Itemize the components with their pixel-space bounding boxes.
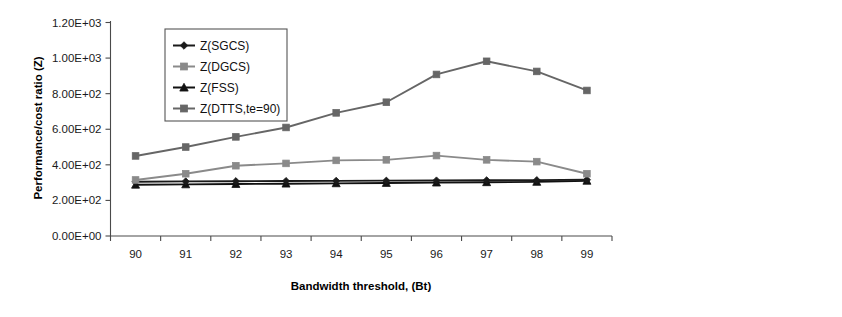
data-point-marker bbox=[533, 68, 540, 75]
data-point-marker bbox=[483, 157, 490, 164]
data-point-marker bbox=[132, 177, 139, 184]
data-point-marker bbox=[383, 157, 390, 164]
series-line bbox=[136, 156, 587, 180]
data-point-marker bbox=[283, 160, 290, 167]
legend-label: Z(SGCS) bbox=[200, 39, 249, 53]
series-z-fss bbox=[132, 177, 591, 188]
x-axis-tick-label: 92 bbox=[229, 248, 242, 260]
data-point-marker bbox=[283, 124, 290, 131]
data-point-marker bbox=[182, 144, 189, 151]
data-point-marker bbox=[181, 63, 188, 70]
x-axis-title: Bandwidth threshold, (Bt) bbox=[291, 280, 432, 292]
x-axis-tick-label: 94 bbox=[330, 248, 343, 260]
x-axis-tick-group: 90919293949596979899 bbox=[111, 236, 613, 260]
data-point-marker bbox=[233, 134, 240, 141]
y-axis-tick-label: 6.00E+02 bbox=[52, 123, 102, 135]
x-axis-tick-label: 97 bbox=[480, 248, 493, 260]
y-axis-tick-label: 8.00E+02 bbox=[52, 88, 102, 100]
line-chart: 0.00E+002.00E+024.00E+026.00E+028.00E+02… bbox=[0, 0, 842, 317]
legend-label: Z(DGCS) bbox=[200, 60, 250, 74]
data-point-marker bbox=[333, 110, 340, 117]
y-axis-tick-label: 1.00E+03 bbox=[52, 52, 102, 64]
x-axis-tick-label: 96 bbox=[430, 248, 443, 260]
y-axis-tick-group: 0.00E+002.00E+024.00E+026.00E+028.00E+02… bbox=[52, 17, 111, 243]
data-point-marker bbox=[181, 105, 188, 112]
data-point-marker bbox=[483, 58, 490, 65]
chart-legend: Z(SGCS)Z(DGCS)Z(FSS)Z(DTTS,te=90) bbox=[165, 29, 287, 121]
series-z-dgcs bbox=[132, 152, 590, 183]
y-axis-tick-label: 0.00E+00 bbox=[52, 230, 102, 242]
x-axis-tick-label: 91 bbox=[179, 248, 192, 260]
y-axis-title: Performance/cost ratio (Z) bbox=[32, 56, 44, 199]
data-point-marker bbox=[233, 162, 240, 169]
y-axis-tick-label: 2.00E+02 bbox=[52, 194, 102, 206]
legend-label: Z(FSS) bbox=[200, 81, 239, 95]
data-point-marker bbox=[533, 158, 540, 165]
data-point-marker bbox=[433, 71, 440, 78]
data-point-marker bbox=[584, 87, 591, 94]
data-point-marker bbox=[132, 153, 139, 160]
data-point-marker bbox=[433, 152, 440, 159]
x-axis-tick-label: 90 bbox=[129, 248, 142, 260]
y-axis-tick-label: 1.20E+03 bbox=[52, 17, 102, 29]
x-axis-tick-label: 95 bbox=[380, 248, 393, 260]
x-axis-tick-label: 99 bbox=[581, 248, 594, 260]
chart-figure: 0.00E+002.00E+024.00E+026.00E+028.00E+02… bbox=[0, 0, 842, 317]
data-point-marker bbox=[182, 170, 189, 177]
data-point-marker bbox=[333, 157, 340, 164]
data-point-marker bbox=[584, 170, 591, 177]
x-axis-tick-label: 93 bbox=[280, 248, 293, 260]
legend-label: Z(DTTS,te=90) bbox=[200, 102, 280, 116]
y-axis-tick-label: 4.00E+02 bbox=[52, 159, 102, 171]
data-point-marker bbox=[383, 99, 390, 106]
x-axis-tick-label: 98 bbox=[530, 248, 543, 260]
